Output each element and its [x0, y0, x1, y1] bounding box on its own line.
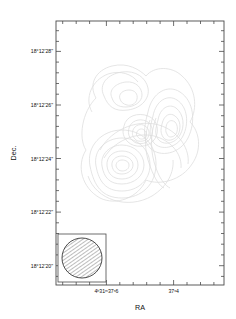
y-tick-label: 18°12'28" — [31, 48, 53, 54]
contour-lower-sweep — [88, 160, 173, 202]
x-tick-label: 37ˢ4 — [168, 288, 179, 294]
x-axis-label: RA — [135, 303, 145, 312]
emission-blob-faint-east — [172, 164, 200, 186]
figure-container: 18°12'28" 18°12'26" 18°12'24" 18°12'22" … — [0, 0, 236, 319]
contour-saddle-arc-1 — [100, 123, 188, 164]
astronomical-figure: 18°12'28" 18°12'26" 18°12'24" 18°12'22" … — [0, 0, 236, 319]
y-tick-labels: 18°12'28" 18°12'26" 18°12'24" 18°12'22" … — [31, 48, 53, 268]
contour-nw-extension — [89, 72, 138, 112]
contour-level-4-north — [120, 90, 138, 105]
emission-blob-nw — [102, 84, 122, 108]
beam-box — [58, 234, 106, 282]
x-tick-labels: 4ʰ31ᵐ37ˢ6 37ˢ4 — [94, 288, 179, 294]
filament-streak — [70, 34, 205, 225]
y-tick-label: 18°12'20" — [31, 263, 53, 269]
y-tick-label: 18°12'24" — [31, 156, 53, 162]
y-tick-label: 18°12'26" — [31, 102, 53, 108]
contour-overlay — [81, 65, 198, 202]
y-tick-label: 18°12'22" — [31, 209, 53, 215]
contour-level-7-sw — [116, 160, 129, 171]
y-axis-label: Dec. — [9, 146, 18, 161]
x-tick-label: 4ʰ31ᵐ37ˢ6 — [94, 288, 118, 294]
synthesized-beam-icon — [62, 238, 102, 278]
contour-level-3-north — [111, 82, 142, 107]
